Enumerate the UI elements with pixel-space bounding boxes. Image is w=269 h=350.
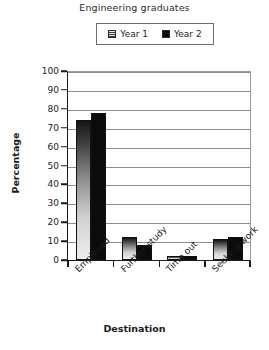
x-axis-category-labels: EmployedFurther studyTime outSeeking wor… — [0, 261, 269, 321]
chart-legend: Year 1 Year 2 — [96, 23, 214, 45]
y-axis-tick-label: 90 — [48, 85, 59, 95]
y-axis-tick-label: 10 — [48, 236, 59, 246]
legend-swatch-year-2-icon — [162, 30, 170, 38]
legend-entry-year-1: Year 1 — [108, 29, 148, 39]
y-axis-ticks: 0102030405060708090100 — [0, 71, 67, 261]
y-axis-tick-label: 40 — [48, 179, 59, 189]
y-axis-tick-label: 20 — [48, 217, 59, 227]
gridline — [68, 185, 250, 186]
x-axis-title: Destination — [0, 323, 269, 334]
legend-entry-year-2: Year 2 — [162, 29, 202, 39]
y-axis-tick-label: 100 — [42, 66, 59, 76]
gridline — [68, 110, 250, 111]
y-axis-tick-label: 50 — [48, 161, 59, 171]
gridline — [68, 167, 250, 168]
legend-label-year-1: Year 1 — [120, 29, 148, 39]
gridline — [68, 148, 250, 149]
y-axis-tick-label: 60 — [48, 142, 59, 152]
gridline — [68, 72, 250, 73]
gridline — [68, 204, 250, 205]
gridline — [68, 129, 250, 130]
y-axis-tick-label: 30 — [48, 198, 59, 208]
chart-title: Engineering graduates — [0, 2, 269, 13]
gridline — [68, 91, 250, 92]
legend-swatch-year-1-icon — [108, 30, 116, 38]
y-axis-tick-label: 70 — [48, 123, 59, 133]
gridline — [68, 223, 250, 224]
y-axis-tick-label: 80 — [48, 104, 59, 114]
legend-label-year-2: Year 2 — [174, 29, 202, 39]
